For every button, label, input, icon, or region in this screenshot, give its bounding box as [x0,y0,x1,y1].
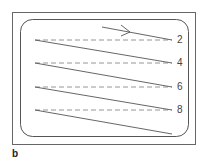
scan-line-label: 8 [177,105,183,115]
solid-scan-line-5 [35,63,172,87]
scan-line-label: 6 [177,82,183,92]
solid-scan-line-3 [35,40,172,63]
scan-line-label: 2 [177,35,183,45]
interlaced-scan-diagram [0,0,207,167]
scan-line-label: 4 [177,58,183,68]
outer-frame [13,13,196,145]
screen-outline [21,20,189,137]
solid-scan-line-9 [35,110,172,134]
panel-label: b [12,148,18,159]
solid-scan-line-1 [102,27,172,40]
solid-scan-line-7 [35,87,172,110]
